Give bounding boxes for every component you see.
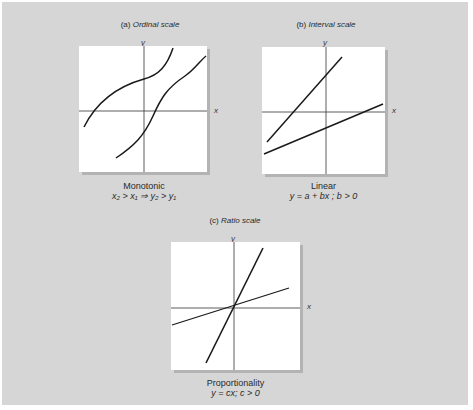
panel-a-caption-name: Monotonic [80, 181, 208, 191]
line-steep [267, 57, 342, 142]
panel-b-y-label: y [323, 38, 327, 47]
panel-c-x-label: x [307, 302, 311, 311]
panel-a-prefix: (a) [121, 20, 131, 29]
line-shallow [172, 288, 289, 325]
panel-b-caption-name: Linear [262, 181, 385, 191]
panel-b-plot [262, 47, 385, 174]
panel-c-title: (c) Ratio scale [185, 216, 285, 225]
panel-b-label: Interval scale [308, 20, 355, 29]
panel-a-plot [79, 46, 207, 172]
panel-a-caption: Monotonic x₂ > x₁ ⇒ y₂ > y₁ [80, 181, 208, 201]
panel-c-graph [171, 242, 300, 370]
panel-b-caption: Linear y = a + bx ; b > 0 [262, 181, 385, 201]
panel-a-graph [79, 46, 207, 172]
panel-c-plot [171, 242, 300, 370]
panel-b-prefix: (b) [296, 20, 306, 29]
panel-b-x-label: x [392, 106, 396, 115]
panel-c-caption-name: Proportionality [171, 378, 300, 388]
curve-upper [84, 48, 173, 127]
panel-c-label: Ratio scale [221, 216, 261, 225]
curve-lower [116, 56, 206, 158]
panel-c-caption: Proportionality y = cx; c > 0 [171, 378, 300, 398]
panel-a-formula: x₂ > x₁ ⇒ y₂ > y₁ [80, 191, 208, 201]
panel-a-title: (a) Ordinal scale [100, 20, 200, 29]
line-shallow [264, 104, 383, 154]
panel-a-label: Ordinal scale [133, 20, 180, 29]
panel-c-prefix: (c) [209, 216, 218, 225]
panel-b-formula: y = a + bx ; b > 0 [262, 191, 385, 201]
panel-b-title: (b) Interval scale [276, 20, 376, 29]
panel-b-graph [262, 47, 385, 174]
panel-c-formula: y = cx; c > 0 [171, 388, 300, 398]
panel-a-x-label: x [214, 106, 218, 115]
